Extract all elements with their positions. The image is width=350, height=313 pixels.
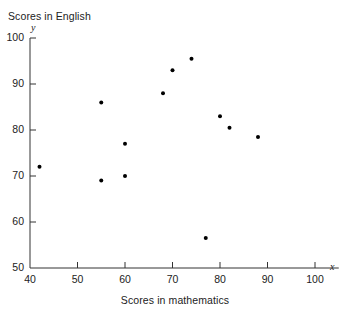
data-points bbox=[38, 57, 261, 240]
x-tick-label-70: 70 bbox=[160, 273, 186, 285]
y-tick-label-60: 60 bbox=[2, 215, 24, 227]
x-tick-label-80: 80 bbox=[207, 273, 233, 285]
scatter-chart: Scores in English y x 5060708090100 4050… bbox=[0, 0, 350, 313]
data-point bbox=[123, 174, 127, 178]
data-point bbox=[204, 236, 208, 240]
y-tick-label-80: 80 bbox=[2, 123, 24, 135]
y-tick-label-100: 100 bbox=[2, 31, 24, 43]
y-tick-label-90: 90 bbox=[2, 77, 24, 89]
tick-marks bbox=[30, 38, 315, 268]
y-tick-label-50: 50 bbox=[2, 261, 24, 273]
data-point bbox=[256, 135, 260, 139]
x-tick-label-50: 50 bbox=[65, 273, 91, 285]
plot-area bbox=[0, 0, 350, 313]
axes bbox=[30, 38, 339, 268]
data-point bbox=[38, 165, 42, 169]
data-point bbox=[190, 57, 194, 61]
data-point bbox=[218, 114, 222, 118]
x-tick-label-90: 90 bbox=[255, 273, 281, 285]
data-point bbox=[161, 91, 165, 95]
data-point bbox=[99, 100, 103, 104]
data-point bbox=[228, 126, 232, 130]
x-axis-title: Scores in mathematics bbox=[0, 294, 350, 306]
data-point bbox=[123, 142, 127, 146]
data-point bbox=[171, 68, 175, 72]
x-tick-label-40: 40 bbox=[17, 273, 43, 285]
y-tick-label-70: 70 bbox=[2, 169, 24, 181]
x-tick-label-100: 100 bbox=[302, 273, 328, 285]
x-tick-label-60: 60 bbox=[112, 273, 138, 285]
data-point bbox=[99, 179, 103, 183]
